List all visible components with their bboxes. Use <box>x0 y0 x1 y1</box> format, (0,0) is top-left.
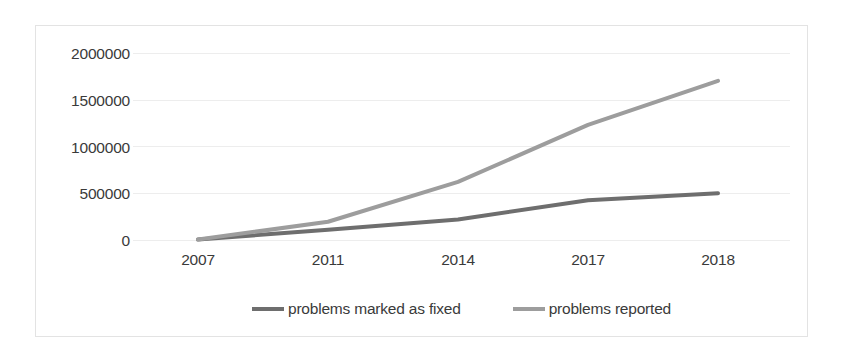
y-tick-label-0: 0 <box>38 233 130 249</box>
y-tick-label-1500000: 1500000 <box>38 93 130 109</box>
legend: problems marked as fixed problems report… <box>133 296 790 322</box>
x-tick-label-2018: 2018 <box>673 252 763 268</box>
line-chart: 2000000 1500000 1000000 500000 0 2007 20… <box>0 0 843 353</box>
y-tick-label-2000000: 2000000 <box>38 46 130 62</box>
gridline-500000 <box>133 193 790 194</box>
y-axis: 2000000 1500000 1000000 500000 0 <box>38 30 130 255</box>
gridline-2000000 <box>133 53 790 54</box>
legend-label-problems-reported: problems reported <box>549 301 671 317</box>
y-tick-label-500000: 500000 <box>38 186 130 202</box>
gridline-1000000 <box>133 146 790 147</box>
plot-area <box>133 45 790 247</box>
x-tick-label-2017: 2017 <box>543 252 633 268</box>
gridline-0 <box>133 240 790 241</box>
legend-item-problems-marked-as-fixed[interactable]: problems marked as fixed <box>252 301 461 317</box>
y-tick-label-1000000: 1000000 <box>38 140 130 156</box>
x-tick-label-2007: 2007 <box>153 252 243 268</box>
legend-swatch-problems-reported <box>513 307 545 311</box>
x-tick-label-2011: 2011 <box>283 252 373 268</box>
legend-label-problems-marked-as-fixed: problems marked as fixed <box>288 301 461 317</box>
gridline-1500000 <box>133 100 790 101</box>
legend-swatch-problems-marked-as-fixed <box>252 307 284 311</box>
x-tick-label-2014: 2014 <box>413 252 503 268</box>
x-axis: 2007 2011 2014 2017 2018 <box>133 252 790 276</box>
legend-item-problems-reported[interactable]: problems reported <box>513 301 671 317</box>
